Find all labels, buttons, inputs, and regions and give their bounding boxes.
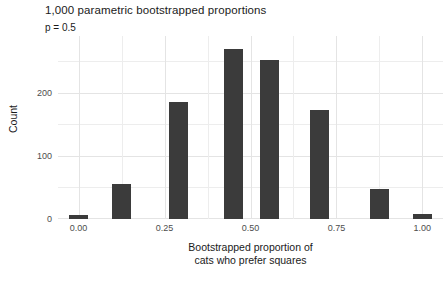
- x-axis-tick-label: 0.00: [70, 223, 88, 233]
- x-axis-tick-label: 0.25: [156, 223, 174, 233]
- x-axis-label: Bootstrapped proportion of cats who pref…: [58, 241, 443, 267]
- y-axis-tick-label: 200: [37, 88, 52, 98]
- bar: [260, 60, 279, 219]
- bar: [112, 184, 131, 219]
- bar: [69, 215, 88, 219]
- chart-subtitle: p = 0.5: [45, 22, 76, 33]
- gridline-vertical-minor: [208, 36, 209, 219]
- y-axis-tick-label: 100: [37, 151, 52, 161]
- bar: [169, 102, 188, 219]
- gridline-vertical-major: [422, 36, 423, 219]
- x-axis-ticks: 0.000.250.500.751.00: [58, 223, 443, 237]
- gridline-vertical-minor: [293, 36, 294, 219]
- x-axis-tick-label: 1.00: [414, 223, 432, 233]
- chart-title: 1,000 parametric bootstrapped proportion…: [45, 4, 266, 16]
- y-axis-label: Count: [7, 84, 19, 154]
- x-axis-tick-label: 0.75: [328, 223, 346, 233]
- gridline-vertical-major: [336, 36, 337, 219]
- x-axis-label-line-2: cats who prefer squares: [58, 254, 443, 267]
- gridline-vertical-major: [251, 36, 252, 219]
- bar: [224, 49, 243, 219]
- y-axis-tick-label: 0: [47, 214, 52, 224]
- bootstrap-histogram-figure: 1,000 parametric bootstrapped proportion…: [0, 0, 445, 283]
- bar: [310, 110, 329, 219]
- plot-area: [58, 36, 443, 219]
- x-axis-tick-label: 0.50: [242, 223, 260, 233]
- gridline-vertical-major: [79, 36, 80, 219]
- x-axis-label-line-1: Bootstrapped proportion of: [58, 241, 443, 254]
- bar: [370, 189, 389, 219]
- bar: [413, 214, 432, 219]
- gridline-vertical-major: [165, 36, 166, 219]
